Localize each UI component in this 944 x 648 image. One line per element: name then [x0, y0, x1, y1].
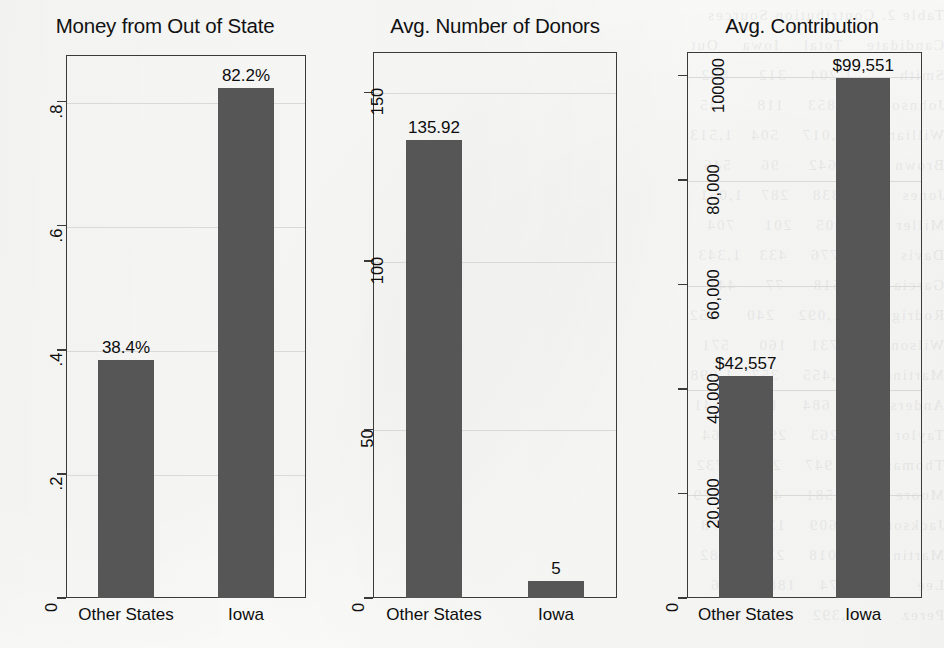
y-axis-tick: [57, 225, 66, 227]
bar-value-label: 135.92: [373, 118, 495, 138]
bar[interactable]: [528, 581, 584, 598]
y-axis-tick-label: 0: [42, 608, 61, 617]
x-axis-category-label: Iowa: [186, 605, 306, 625]
y-axis-tick-label: .8: [47, 111, 66, 125]
y-axis-tick: [678, 388, 687, 390]
y-axis-tick-label: 0: [349, 608, 368, 617]
y-axis-tick-label: 0: [663, 608, 682, 617]
panel-avg-number-of-donors: Avg. Number of Donors 050100150135.92Oth…: [330, 0, 660, 648]
y-axis-tick: [57, 597, 66, 599]
y-axis-tick: [678, 284, 687, 286]
bar[interactable]: [218, 88, 273, 598]
y-axis-tick-label: 60,000: [704, 294, 723, 344]
bar-value-label: 5: [495, 559, 617, 579]
y-axis-tick: [678, 597, 687, 599]
y-axis-tick-label: 100: [368, 270, 387, 298]
panel-title: Money from Out of State: [0, 14, 330, 38]
bar-value-label: 82.2%: [186, 66, 306, 86]
bar[interactable]: [98, 360, 153, 598]
y-axis-tick-label: .4: [47, 359, 66, 373]
y-axis-tick: [57, 349, 66, 351]
gridline: [374, 93, 616, 94]
y-axis-tick-label: 100000: [709, 85, 728, 140]
bar-value-label: 38.4%: [66, 338, 186, 358]
x-axis-category-label: Other States: [687, 605, 805, 625]
panel-money-from-out-of-state: Money from Out of State 0.2.4.6.838.4%Ot…: [0, 0, 330, 648]
panel-avg-contribution: Avg. Contribution 020,00040,00060,00080,…: [660, 0, 944, 648]
figure-root: Table 2. Contribution Sources Candidate …: [0, 0, 944, 648]
y-axis-tick: [678, 493, 687, 495]
y-axis-tick: [57, 473, 66, 475]
x-axis-category-label: Other States: [66, 605, 186, 625]
x-axis-category-label: Other States: [373, 605, 495, 625]
y-axis-tick-label: .2: [47, 483, 66, 497]
panel-title: Avg. Contribution: [660, 14, 944, 38]
y-axis-tick: [678, 179, 687, 181]
y-axis-tick-label: 50: [358, 439, 377, 457]
y-axis-tick: [678, 75, 687, 77]
y-axis-tick: [364, 597, 373, 599]
bar-value-label: $99,551: [805, 56, 923, 76]
y-axis-tick: [57, 101, 66, 103]
bar[interactable]: [406, 140, 462, 598]
bar[interactable]: [719, 376, 773, 598]
x-axis-category-label: Iowa: [495, 605, 617, 625]
bar-value-label: $42,557: [687, 354, 805, 374]
panel-title: Avg. Number of Donors: [330, 14, 660, 38]
x-axis-category-label: Iowa: [805, 605, 923, 625]
y-axis-tick-label: 80,000: [704, 190, 723, 240]
y-axis-tick-label: .6: [47, 235, 66, 249]
bar[interactable]: [836, 78, 890, 598]
